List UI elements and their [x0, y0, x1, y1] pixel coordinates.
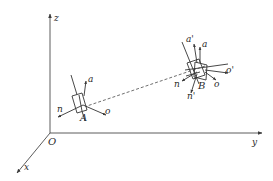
frame-b-o-prime-axis	[205, 70, 228, 73]
frame-b-o-label: o	[214, 80, 219, 89]
origin-label: O	[48, 137, 56, 147]
z-axis-label: z	[54, 14, 59, 23]
frame-a-a-label: a	[88, 75, 93, 84]
frame-a-label: A	[80, 113, 87, 123]
frame-b-n-label: n	[174, 80, 180, 89]
x-axis-label: x	[24, 163, 29, 172]
y-axis-label: y	[252, 138, 257, 147]
world-axes	[17, 14, 262, 173]
x-axis	[17, 133, 50, 173]
frame-b-a-prime-label: a'	[186, 35, 194, 44]
frame-a-o-label: o	[105, 107, 110, 116]
frame-b-o-prime-label: o'	[226, 66, 234, 75]
frame-a-n-label: n	[57, 105, 63, 114]
frame-b-a-label: a	[202, 40, 207, 49]
diagram-canvas	[0, 0, 273, 181]
frame-a-a-axis	[84, 81, 86, 96]
frame-b-label: B	[198, 81, 205, 91]
frame-b-n-prime-label: n'	[187, 92, 195, 101]
